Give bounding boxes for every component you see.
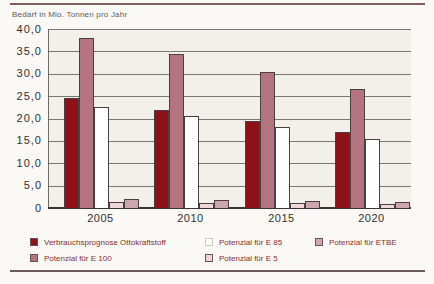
legend-label: Verbrauchsprognose Ottokraftstoff [44, 238, 166, 247]
bar-2010-series-1 [169, 54, 184, 208]
bar-2020-series-1 [350, 89, 365, 208]
y-tick-label: 25,0 [0, 91, 42, 102]
bar-2010-series-4 [214, 200, 229, 208]
legend-swatch [30, 254, 38, 262]
y-tick-label: 30,0 [0, 68, 42, 79]
plot-area [48, 29, 411, 208]
y-tick-label: 15,0 [0, 135, 42, 146]
y-tick-label: 40,0 [0, 24, 42, 35]
gridline [49, 29, 411, 30]
bar-2005-series-0 [64, 98, 79, 208]
legend-label: Potenzial für ETBE [329, 238, 397, 247]
legend-item: Potenzial für E 85 [205, 237, 282, 247]
legend-label: Potenzial für E 5 [219, 254, 278, 263]
bar-2005-series-2 [94, 107, 109, 208]
legend-swatch [30, 238, 38, 246]
gridline [49, 74, 411, 75]
y-tick-label: 35,0 [0, 46, 42, 57]
bar-2005-series-3 [109, 202, 124, 208]
legend-swatch [315, 238, 323, 246]
x-tick-label: 2005 [61, 212, 141, 224]
bar-2015-series-4 [305, 201, 320, 208]
bottom-rule [10, 270, 425, 272]
bar-2005-series-1 [79, 38, 94, 208]
legend-item: Potenzial für ETBE [315, 237, 397, 247]
legend-label: Potenzial für E 85 [219, 238, 282, 247]
bar-2020-series-4 [395, 202, 410, 208]
bar-2010-series-2 [184, 116, 199, 208]
legend-label: Potenzial für E 100 [44, 254, 112, 263]
legend-swatch [205, 238, 213, 246]
bar-2005-series-4 [124, 199, 139, 208]
y-tick-label: 5,0 [0, 180, 42, 191]
legend-item: Verbrauchsprognose Ottokraftstoff [30, 237, 166, 247]
x-tick-label: 2020 [332, 212, 412, 224]
gridline [49, 51, 411, 52]
legend-swatch [205, 254, 213, 262]
bar-2010-series-3 [199, 203, 214, 208]
bar-2015-series-1 [260, 72, 275, 208]
y-tick-label: 10,0 [0, 158, 42, 169]
bar-2020-series-2 [365, 139, 380, 208]
bar-2015-series-3 [290, 203, 305, 208]
y-tick-label: 0 [0, 203, 42, 214]
chart-page: Bedarf in Mio. Tonnen pro Jahr Verbrauch… [0, 0, 434, 284]
bar-2010-series-0 [154, 110, 169, 208]
bar-2015-series-0 [245, 121, 260, 208]
chart-title: Bedarf in Mio. Tonnen pro Jahr [12, 10, 127, 19]
bar-2020-series-0 [335, 132, 350, 208]
legend-item: Potenzial für E 5 [205, 253, 278, 263]
y-tick-label: 20,0 [0, 113, 42, 124]
bar-2020-series-3 [380, 204, 395, 208]
top-rule [10, 3, 425, 5]
x-tick-label: 2015 [242, 212, 322, 224]
x-tick-label: 2010 [151, 212, 231, 224]
bar-2015-series-2 [275, 127, 290, 208]
legend-item: Potenzial für E 100 [30, 253, 112, 263]
